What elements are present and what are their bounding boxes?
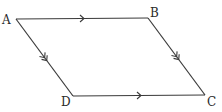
parallelogram-diagram: A B C D: [0, 0, 222, 112]
edge-dc: [73, 95, 205, 96]
parallel-markers: [39, 15, 179, 99]
vertex-label-c: C: [207, 95, 216, 109]
vertex-label-a: A: [1, 13, 11, 27]
vertex-label-d: D: [61, 95, 71, 109]
vertex-label-b: B: [150, 6, 159, 20]
edge-ab: [16, 18, 148, 19]
vertex-labels: A B C D: [1, 6, 216, 109]
